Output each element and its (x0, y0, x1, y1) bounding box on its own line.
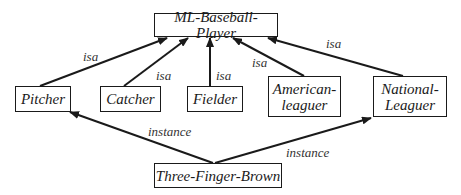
edge-instance-tfb-to-pitcher (70, 112, 213, 163)
node-label: Fielder (193, 91, 237, 107)
node-ml: ML-Baseball-Player (154, 13, 278, 37)
edge-isa-american-to-ml (233, 38, 304, 76)
node-label: Pitcher (21, 91, 65, 107)
node-label: Three-Finger-Brown (156, 168, 280, 184)
node-catcher: Catcher (100, 86, 161, 112)
edge-label-isa: isa (252, 56, 267, 69)
edge-label-isa: isa (326, 37, 341, 50)
node-label: ML-Baseball-Player (155, 9, 277, 41)
edge-isa-pitcher-to-ml (40, 38, 167, 86)
edge-label-instance: instance (286, 146, 329, 159)
node-pitcher: Pitcher (15, 86, 71, 112)
node-tfb: Three-Finger-Brown (154, 163, 282, 188)
edge-label-isa: isa (216, 69, 231, 82)
edge-label-isa: isa (156, 69, 171, 82)
node-label: American- leaguer (273, 81, 336, 113)
node-national: National- Leaguer (373, 76, 447, 117)
node-fielder: Fielder (187, 86, 243, 112)
edge-label-instance: instance (148, 125, 191, 138)
edge-label-isa: isa (83, 50, 98, 63)
node-american: American- leaguer (268, 76, 341, 117)
node-label: Catcher (106, 91, 154, 107)
node-label: National- Leaguer (381, 81, 439, 113)
